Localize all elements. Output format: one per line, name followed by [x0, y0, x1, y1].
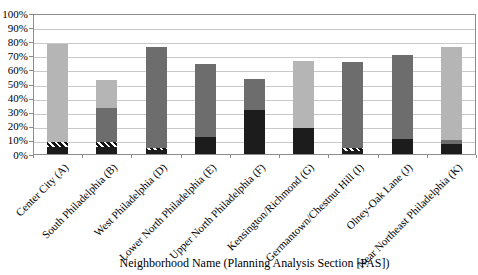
stacked-bar-chart-figure: 100%90%80%70%60%50%40%30%20%10%0% Center… [0, 0, 478, 275]
bar-4 [195, 15, 216, 154]
plot-area [33, 14, 476, 155]
x-tick-mark [181, 155, 182, 158]
x-tick-mark [33, 155, 34, 158]
bar-9 [441, 15, 462, 154]
y-tick-label: 60% [0, 64, 28, 77]
y-tick-mark [29, 42, 33, 43]
y-tick-mark [29, 28, 33, 29]
bar-6 [293, 15, 314, 154]
y-tick-label: 70% [0, 50, 28, 63]
black-segment [293, 128, 314, 154]
y-tick-mark [29, 127, 33, 128]
black-segment [47, 147, 68, 154]
x-tick-mark [378, 155, 379, 158]
x-axis-title: Neighborhood Name (Planning Analysis Sec… [33, 256, 476, 271]
x-tick-mark [82, 155, 83, 158]
x-category-label: Lower North Philadelphia (E) [116, 161, 218, 263]
y-tick-mark [29, 14, 33, 15]
y-tick-label: 10% [0, 134, 28, 147]
y-tick-mark [29, 99, 33, 100]
bar-8 [392, 15, 413, 154]
y-tick-mark [29, 56, 33, 57]
black-segment [441, 144, 462, 154]
medium-gray-segment [342, 62, 363, 154]
black-segment [392, 139, 413, 154]
black-segment [195, 137, 216, 154]
y-tick-label: 30% [0, 106, 28, 119]
y-tick-label: 100% [0, 8, 28, 21]
y-tick-mark [29, 85, 33, 86]
black-segment [342, 151, 363, 154]
x-tick-mark [476, 155, 477, 158]
x-category-label: Upper North Philadelphia (F) [167, 161, 267, 261]
black-segment [244, 110, 265, 154]
x-category-label: Near Northeast Philadelphia (K) [355, 161, 464, 270]
x-category-label: Germantown/Chestnut Hill (I) [263, 161, 366, 264]
medium-gray-segment [146, 47, 167, 154]
x-category-label: Kensington/Richmond (G) [225, 161, 317, 253]
y-tick-mark [29, 141, 33, 142]
x-tick-mark [279, 155, 280, 158]
bar-1 [47, 15, 68, 154]
x-tick-mark [131, 155, 132, 158]
y-tick-label: 90% [0, 22, 28, 35]
y-tick-label: 20% [0, 120, 28, 133]
y-tick-label: 0% [0, 149, 28, 162]
x-tick-mark [427, 155, 428, 158]
y-tick-label: 40% [0, 92, 28, 105]
x-tick-mark [230, 155, 231, 158]
light-gray-segment [441, 47, 462, 154]
black-segment [96, 147, 117, 154]
bar-3 [146, 15, 167, 154]
bar-2 [96, 15, 117, 154]
y-tick-label: 80% [0, 36, 28, 49]
light-gray-segment [47, 44, 68, 154]
black-segment [146, 150, 167, 154]
bar-5 [244, 15, 265, 154]
y-tick-mark [29, 70, 33, 71]
y-tick-mark [29, 113, 33, 114]
y-tick-label: 50% [0, 78, 28, 91]
x-tick-mark [328, 155, 329, 158]
bar-7 [342, 15, 363, 154]
